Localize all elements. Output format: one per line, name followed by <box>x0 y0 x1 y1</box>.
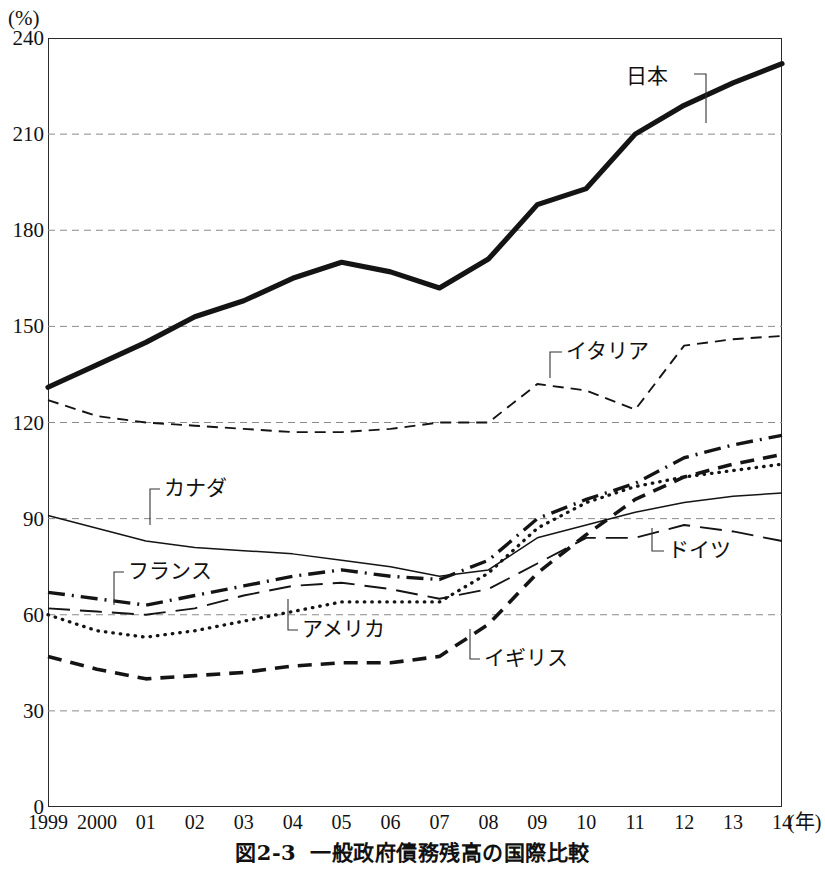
caption-number: 図2-3 <box>235 840 296 865</box>
x-tick-10: 10 <box>576 812 596 832</box>
series-label-usa: アメリカ <box>302 619 385 640</box>
chart-canvas <box>0 0 825 871</box>
x-tick-07: 07 <box>429 812 449 832</box>
x-tick-11: 11 <box>626 812 645 832</box>
x-tick-2000: 2000 <box>77 812 117 832</box>
x-tick-09: 09 <box>527 812 547 832</box>
series-line-japan <box>48 64 782 388</box>
x-tick-08: 08 <box>478 812 498 832</box>
x-tick-12: 12 <box>674 812 694 832</box>
series-label-uk: イギリス <box>484 648 568 669</box>
x-tick-06: 06 <box>381 812 401 832</box>
caption-title: 一般政府債務残高の国際比較 <box>310 840 590 865</box>
series-label-italy: イタリア <box>566 341 649 362</box>
leader-italy <box>550 352 562 378</box>
series-layer <box>48 64 782 679</box>
series-label-japan: 日本 <box>626 66 668 87</box>
figure-root: (%) 0306090120150180210240 1999200001020… <box>0 0 825 871</box>
series-label-germany: ドイツ <box>668 540 731 561</box>
x-tick-02: 02 <box>185 812 205 832</box>
x-tick-01: 01 <box>136 812 156 832</box>
x-axis-unit-label: (年) <box>788 812 821 832</box>
x-tick-13: 13 <box>723 812 743 832</box>
x-tick-03: 03 <box>234 812 254 832</box>
leader-canada <box>150 489 160 525</box>
series-line-italy <box>48 336 782 432</box>
figure-caption: 図2-3一般政府債務残高の国際比較 <box>0 840 825 865</box>
series-label-canada: カナダ <box>164 478 227 499</box>
x-tick-1999: 1999 <box>28 812 68 832</box>
series-label-france: フランス <box>128 561 212 582</box>
x-tick-04: 04 <box>283 812 303 832</box>
x-tick-05: 05 <box>332 812 352 832</box>
